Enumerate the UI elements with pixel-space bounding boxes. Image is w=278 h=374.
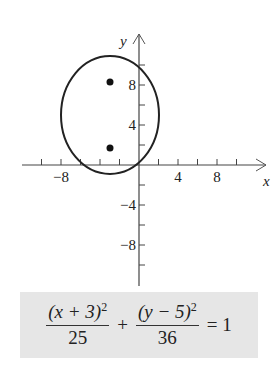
exponent-y: 2: [191, 300, 197, 314]
tick-label-y-neg8: −8: [120, 237, 136, 253]
focus-point-lower: [107, 145, 114, 152]
tick-label-x-4: 4: [174, 169, 182, 185]
x-axis-label: x: [262, 173, 270, 189]
denominator-y: 36: [158, 326, 177, 349]
numerator-y: (y − 5): [138, 301, 191, 322]
denominator-x: 25: [68, 326, 87, 349]
tick-label-y-8: 8: [129, 77, 137, 93]
exponent-x: 2: [101, 300, 107, 314]
tick-label-x-neg8: −8: [53, 169, 69, 185]
numerator-x: (x + 3): [48, 301, 101, 322]
tick-label-y-neg4: −4: [120, 197, 136, 213]
fraction-x: (x + 3)2 25: [46, 301, 109, 349]
equation-box: (x + 3)2 25 + (y − 5)2 36 = 1: [20, 292, 258, 358]
y-axis-label: y: [118, 33, 127, 49]
equals-one: = 1: [207, 314, 232, 336]
focus-point-upper: [107, 79, 114, 86]
ellipse-equation: (x + 3)2 25 + (y − 5)2 36 = 1: [20, 292, 258, 358]
ellipse-curve: [61, 56, 159, 174]
fraction-y: (y − 5)2 36: [136, 301, 199, 349]
plus-sign: +: [117, 314, 128, 336]
tick-label-x-8: 8: [213, 169, 221, 185]
tick-label-y-4: 4: [129, 117, 137, 133]
